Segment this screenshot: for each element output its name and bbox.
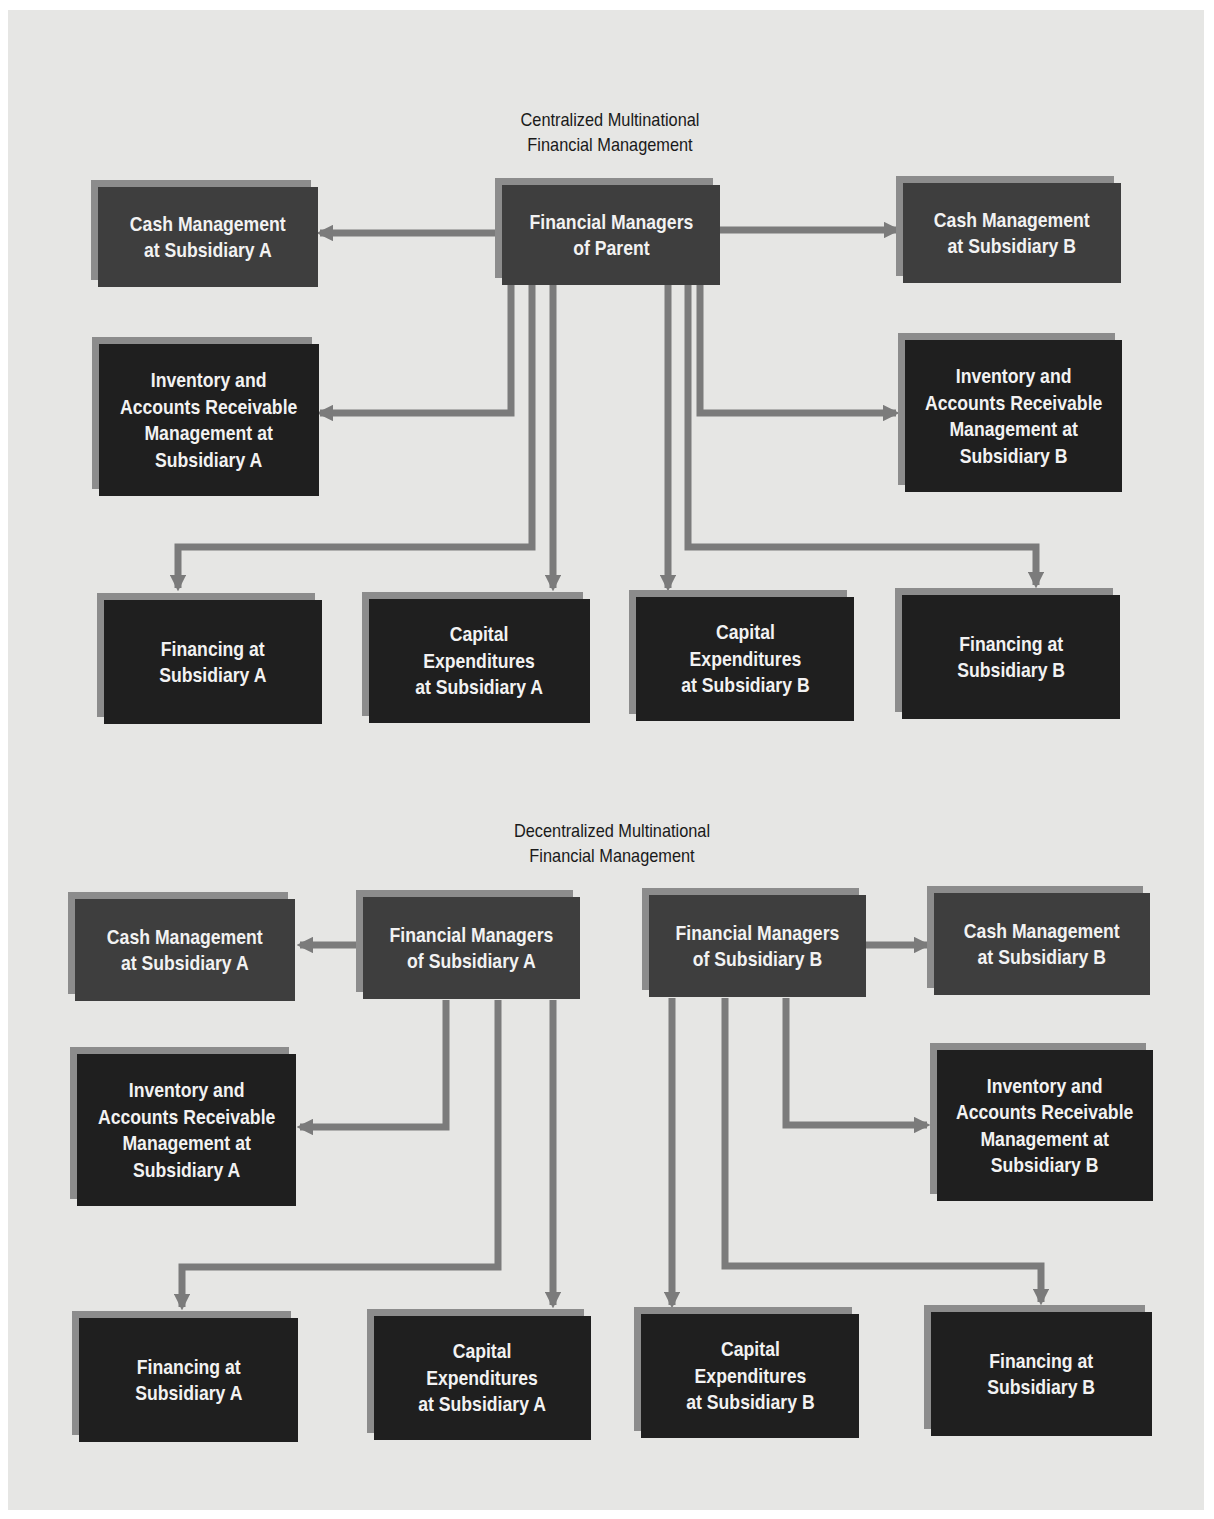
- decentralized-title-line1: Decentralized Multinational: [440, 818, 784, 843]
- box-label: Inventory and Accounts Receivable Manage…: [925, 363, 1102, 469]
- box-label: Cash Management at Subsidiary B: [964, 918, 1120, 971]
- box-label: Inventory and Accounts Receivable Manage…: [120, 367, 297, 473]
- box-decentral-manager-b: Financial Managers of Subsidiary B: [649, 895, 866, 997]
- centralized-title-line1: Centralized Multinational: [438, 107, 782, 132]
- box-central-capex-a: Capital Expenditures at Subsidiary A: [369, 599, 590, 723]
- box-central-inventory-a: Inventory and Accounts Receivable Manage…: [99, 344, 319, 496]
- box-label: Financing at Subsidiary B: [957, 631, 1065, 684]
- centralized-title: Centralized Multinational Financial Mana…: [438, 107, 782, 157]
- decentralized-title-line2: Financial Management: [440, 843, 784, 868]
- box-label: Financing at Subsidiary B: [988, 1348, 1096, 1401]
- box-label: Cash Management at Subsidiary A: [130, 211, 286, 264]
- box-label: Inventory and Accounts Receivable Manage…: [956, 1073, 1133, 1179]
- box-label: Financing at Subsidiary A: [159, 636, 266, 689]
- box-decentral-manager-a: Financial Managers of Subsidiary A: [363, 897, 580, 999]
- box-label: Capital Expenditures at Subsidiary A: [416, 621, 544, 701]
- box-label: Financial Managers of Subsidiary B: [676, 920, 840, 973]
- box-central-parent: Financial Managers of Parent: [502, 185, 720, 285]
- box-decentral-capex-b: Capital Expenditures at Subsidiary B: [641, 1314, 859, 1438]
- centralized-title-line2: Financial Management: [438, 132, 782, 157]
- box-central-capex-b: Capital Expenditures at Subsidiary B: [636, 597, 854, 721]
- box-central-financing-b: Financing at Subsidiary B: [902, 595, 1120, 719]
- box-decentral-financing-a: Financing at Subsidiary A: [79, 1318, 298, 1442]
- box-label: Financing at Subsidiary A: [135, 1354, 242, 1407]
- box-decentral-financing-b: Financing at Subsidiary B: [931, 1312, 1152, 1436]
- box-label: Inventory and Accounts Receivable Manage…: [98, 1077, 275, 1183]
- box-central-inventory-b: Inventory and Accounts Receivable Manage…: [905, 340, 1122, 492]
- box-decentral-cash-b: Cash Management at Subsidiary B: [934, 893, 1150, 995]
- box-label: Cash Management at Subsidiary B: [934, 207, 1090, 260]
- box-decentral-inventory-b: Inventory and Accounts Receivable Manage…: [937, 1050, 1153, 1201]
- box-central-financing-a: Financing at Subsidiary A: [104, 600, 322, 724]
- box-central-cash-b: Cash Management at Subsidiary B: [903, 183, 1121, 283]
- box-central-cash-a: Cash Management at Subsidiary A: [98, 187, 318, 287]
- box-label: Financial Managers of Parent: [529, 209, 693, 262]
- box-decentral-capex-a: Capital Expenditures at Subsidiary A: [374, 1316, 591, 1440]
- box-label: Cash Management at Subsidiary A: [107, 924, 263, 977]
- box-label: Capital Expenditures at Subsidiary A: [419, 1338, 547, 1418]
- box-decentral-cash-a: Cash Management at Subsidiary A: [75, 899, 295, 1001]
- box-label: Capital Expenditures at Subsidiary B: [686, 1336, 814, 1416]
- box-decentral-inventory-a: Inventory and Accounts Receivable Manage…: [77, 1054, 296, 1206]
- box-label: Financial Managers of Subsidiary A: [390, 922, 554, 975]
- box-label: Capital Expenditures at Subsidiary B: [681, 619, 809, 699]
- decentralized-title: Decentralized Multinational Financial Ma…: [440, 818, 784, 868]
